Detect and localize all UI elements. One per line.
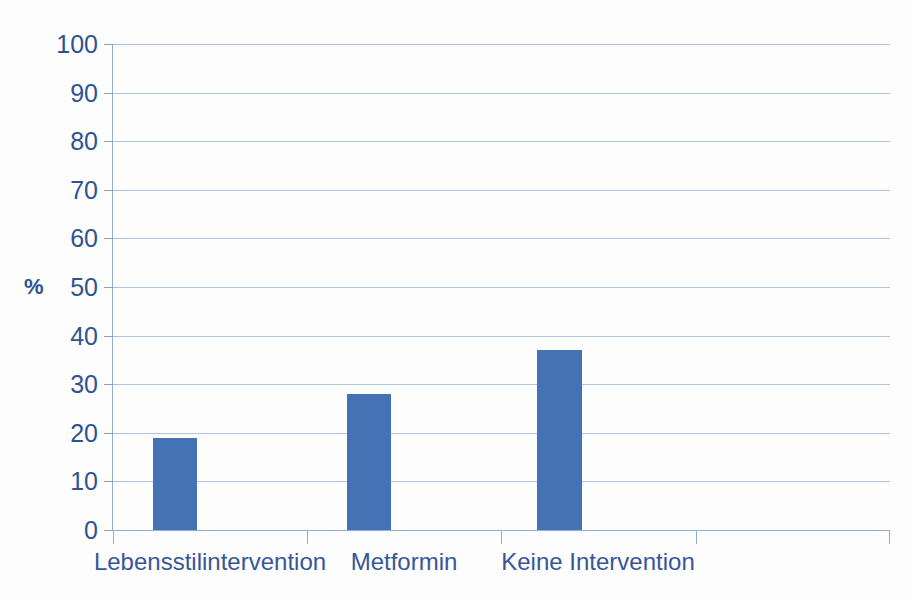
y-tick-mark — [104, 190, 113, 191]
y-tick-label: 30 — [40, 372, 98, 397]
y-tick-mark — [104, 238, 113, 239]
x-tick-mark — [307, 531, 308, 544]
y-tick-label: 50 — [40, 275, 98, 300]
y-tick-mark — [104, 141, 113, 142]
plot-area — [113, 44, 890, 530]
y-tick-mark — [104, 336, 113, 337]
x-tick-mark — [501, 531, 502, 544]
x-tick-mark — [889, 531, 890, 544]
y-tick-label: 100 — [40, 32, 98, 57]
gridline — [113, 433, 890, 434]
chart-figure: 100 90 80 70 60 50 40 30 20 10 0 % — [0, 0, 913, 600]
y-axis-unit-label: % — [24, 274, 44, 300]
gridline — [113, 287, 890, 288]
y-tick-label: 10 — [40, 469, 98, 494]
y-tick-label: 90 — [40, 80, 98, 105]
y-tick-mark — [104, 481, 113, 482]
x-category-label-metformin: Metformin — [351, 549, 458, 575]
gridline — [113, 93, 890, 94]
gridline — [113, 336, 890, 337]
y-tick-mark — [104, 44, 113, 45]
y-axis-labels: 100 90 80 70 60 50 40 30 20 10 0 % — [0, 0, 98, 600]
gridline — [113, 44, 890, 45]
x-category-label-keine-intervention: Keine Intervention — [501, 549, 694, 575]
y-tick-label: 60 — [40, 226, 98, 251]
y-tick-mark — [104, 384, 113, 385]
y-tick-mark — [104, 287, 113, 288]
y-tick-mark — [104, 530, 113, 531]
x-category-label-lebensstilintervention: Lebensstilintervention — [94, 549, 326, 575]
bar-lebensstilintervention — [153, 438, 197, 530]
gridline — [113, 384, 890, 385]
gridline — [113, 481, 890, 482]
y-tick-mark — [104, 93, 113, 94]
y-tick-label: 80 — [40, 129, 98, 154]
y-tick-label: 40 — [40, 323, 98, 348]
x-tick-mark — [696, 531, 697, 544]
y-tick-label: 70 — [40, 177, 98, 202]
y-tick-label: 20 — [40, 420, 98, 445]
gridline — [113, 238, 890, 239]
gridline — [113, 141, 890, 142]
y-tick-label: 0 — [40, 518, 98, 543]
x-tick-mark — [113, 531, 114, 544]
y-tick-mark — [104, 433, 113, 434]
bar-keine-intervention — [537, 350, 582, 530]
bar-metformin — [347, 394, 391, 530]
gridline — [113, 190, 890, 191]
